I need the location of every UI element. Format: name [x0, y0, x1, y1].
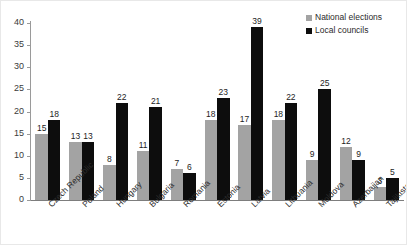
- bar-value-label: 23: [219, 87, 228, 97]
- bar-value-label: 18: [274, 109, 283, 119]
- bar-group: 925: [306, 23, 331, 200]
- bar-value-label: 11: [139, 140, 148, 150]
- bar: 25: [318, 89, 331, 200]
- y-axis-tick-label: 20: [14, 106, 24, 117]
- x-axis-label: Azerbaijan: [350, 202, 357, 209]
- bar-group: 129: [340, 23, 365, 200]
- bar-value-label: 12: [341, 136, 350, 146]
- bar: 15: [35, 134, 48, 200]
- bar-chart: 0510152025303540 15181313822112176182317…: [0, 0, 407, 245]
- bar-value-label: 17: [240, 114, 249, 124]
- bar-value-label: 9: [356, 149, 361, 159]
- bar: 22: [116, 103, 129, 200]
- bar: 11: [137, 151, 150, 200]
- x-axis-label: Romania: [181, 202, 188, 209]
- bar-value-label: 5: [390, 167, 395, 177]
- legend-swatch-icon: [306, 15, 312, 21]
- bar-value-label: 21: [151, 96, 160, 106]
- y-axis-tick-label: 10: [14, 150, 24, 161]
- bar-group: 822: [103, 23, 128, 200]
- y-axis-tick-label: 30: [14, 61, 24, 72]
- bar-group: 1518: [35, 23, 60, 200]
- x-axis-label: Bulgaria: [147, 202, 154, 209]
- legend-item: Local councils: [306, 25, 382, 36]
- bar-value-label: 13: [83, 131, 92, 141]
- bar-group: 1121: [137, 23, 162, 200]
- x-axis-labels: Czech RepublicPolandHungaryBulgariaRoman…: [31, 202, 403, 245]
- x-axis-label: Czech Republic: [46, 202, 53, 209]
- bar: 21: [149, 107, 162, 200]
- y-axis-tick-mark: [27, 200, 31, 201]
- bar: 8: [103, 165, 116, 200]
- y-axis-tick-label: 40: [14, 17, 24, 28]
- legend-swatch-icon: [306, 28, 312, 34]
- bar-value-label: 22: [117, 92, 126, 102]
- chart-legend: National electionsLocal councils: [306, 12, 382, 38]
- x-axis-label: Hungary: [114, 202, 121, 209]
- bar: 18: [272, 120, 285, 200]
- bar-value-label: 13: [71, 131, 80, 141]
- bar-value-label: 18: [49, 109, 58, 119]
- bar-value-label: 9: [310, 149, 315, 159]
- bar-group: 1823: [205, 23, 230, 200]
- y-axis-tick-label: 5: [19, 172, 24, 183]
- bar-group: 1739: [238, 23, 263, 200]
- bar-value-label: 7: [175, 158, 180, 168]
- y-axis-tick-label: 35: [14, 39, 24, 50]
- bar-value-label: 6: [187, 162, 192, 172]
- legend-label: Local councils: [315, 25, 368, 36]
- bar: 22: [285, 103, 298, 200]
- bar: 12: [340, 147, 353, 200]
- bar-value-label: 15: [37, 123, 46, 133]
- x-axis-label: Moldova: [316, 202, 323, 209]
- legend-label: National elections: [315, 12, 382, 23]
- y-axis-tick-label: 0: [19, 194, 24, 205]
- bar-value-label: 8: [107, 154, 112, 164]
- y-axis-tick-label: 25: [14, 83, 24, 94]
- x-axis-label: Lithuania: [283, 202, 290, 209]
- y-axis-tick-label: 15: [14, 128, 24, 139]
- legend-item: National elections: [306, 12, 382, 23]
- x-axis-label: Latvia: [249, 202, 256, 209]
- bar-group: 1822: [272, 23, 297, 200]
- bar-value-label: 39: [252, 16, 261, 26]
- bar-value-label: 25: [320, 78, 329, 88]
- bar: 23: [217, 98, 230, 200]
- bar-value-label: 22: [286, 92, 295, 102]
- bar: 39: [251, 27, 264, 200]
- x-axis-label: Poland: [80, 202, 87, 209]
- bar-value-label: 18: [206, 109, 215, 119]
- x-axis-label: Estonia: [215, 202, 222, 209]
- bar-group: 76: [171, 23, 196, 200]
- x-axis-label: Tajikistan: [384, 202, 391, 209]
